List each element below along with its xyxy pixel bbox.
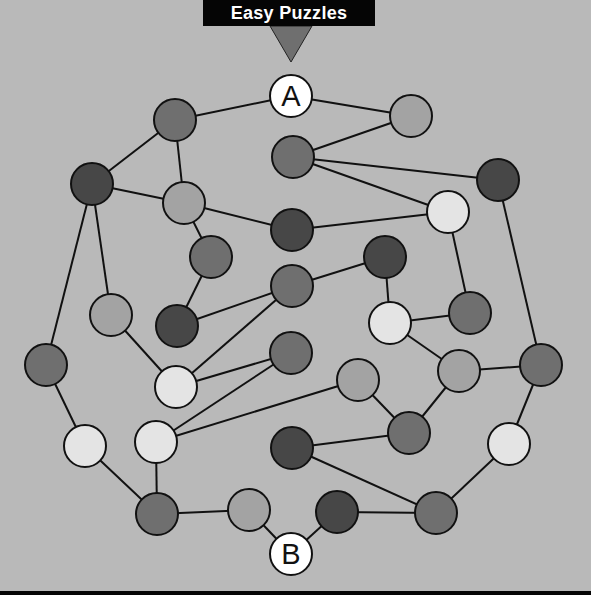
node-circle[interactable] — [136, 493, 178, 535]
graph-node[interactable] — [438, 350, 480, 392]
graph-node[interactable] — [449, 292, 491, 334]
node-circle[interactable] — [520, 344, 562, 386]
graph-node[interactable] — [388, 412, 430, 454]
graph-node[interactable] — [337, 359, 379, 401]
graph-node[interactable] — [190, 236, 232, 278]
graph-node[interactable] — [90, 294, 132, 336]
puzzle-title: Easy Puzzles — [231, 3, 348, 24]
graph-edge[interactable] — [46, 184, 92, 365]
graph-node[interactable] — [155, 366, 197, 408]
node-circle[interactable] — [337, 359, 379, 401]
node-circle[interactable] — [155, 366, 197, 408]
node-circle[interactable] — [270, 332, 312, 374]
node-circle[interactable] — [369, 302, 411, 344]
node-circle[interactable] — [415, 492, 457, 534]
graph-node[interactable] — [154, 99, 196, 141]
graph-node[interactable] — [228, 489, 270, 531]
graph-node[interactable] — [477, 159, 519, 201]
graph-canvas: AB — [0, 0, 591, 595]
graph-node[interactable] — [271, 209, 313, 251]
graph-edge[interactable] — [292, 448, 436, 513]
graph-node[interactable] — [272, 136, 314, 178]
node-circle[interactable] — [163, 182, 205, 224]
node-circle[interactable] — [488, 423, 530, 465]
node-circle[interactable] — [316, 491, 358, 533]
node-circle[interactable] — [271, 265, 313, 307]
node-circle[interactable] — [364, 236, 406, 278]
node-circle[interactable] — [71, 163, 113, 205]
graph-edge[interactable] — [292, 212, 448, 230]
node-circle[interactable] — [271, 209, 313, 251]
node-circle[interactable] — [272, 136, 314, 178]
graph-node[interactable] — [390, 95, 432, 137]
graph-node[interactable] — [156, 305, 198, 347]
graph-node[interactable] — [488, 423, 530, 465]
node-circle[interactable] — [271, 427, 313, 469]
node-label: B — [281, 538, 300, 570]
node-circle[interactable] — [90, 294, 132, 336]
bottom-border — [0, 591, 591, 595]
graph-node[interactable] — [25, 344, 67, 386]
node-circle[interactable] — [156, 305, 198, 347]
node-circle[interactable] — [390, 95, 432, 137]
graph-node[interactable] — [520, 344, 562, 386]
node-circle[interactable] — [228, 489, 270, 531]
node-circle[interactable] — [135, 421, 177, 463]
graph-nodes: AB — [25, 75, 562, 575]
puzzle-title-banner: Easy Puzzles — [203, 0, 375, 26]
node-b-endpoint[interactable]: B — [270, 533, 312, 575]
graph-node[interactable] — [364, 236, 406, 278]
graph-node[interactable] — [316, 491, 358, 533]
node-label: A — [281, 80, 301, 112]
graph-node[interactable] — [427, 191, 469, 233]
start-pointer-icon — [270, 26, 312, 62]
graph-node[interactable] — [135, 421, 177, 463]
node-circle[interactable] — [25, 344, 67, 386]
node-circle[interactable] — [477, 159, 519, 201]
graph-node[interactable] — [71, 163, 113, 205]
graph-node[interactable] — [270, 332, 312, 374]
node-circle[interactable] — [64, 425, 106, 467]
graph-node[interactable] — [136, 493, 178, 535]
node-a-endpoint[interactable]: A — [270, 75, 312, 117]
graph-node[interactable] — [271, 265, 313, 307]
node-circle[interactable] — [438, 350, 480, 392]
graph-node[interactable] — [163, 182, 205, 224]
node-circle[interactable] — [190, 236, 232, 278]
graph-node[interactable] — [415, 492, 457, 534]
puzzle-board: AB Easy Puzzles — [0, 0, 591, 595]
node-circle[interactable] — [449, 292, 491, 334]
graph-node[interactable] — [369, 302, 411, 344]
graph-node[interactable] — [64, 425, 106, 467]
node-circle[interactable] — [388, 412, 430, 454]
node-circle[interactable] — [154, 99, 196, 141]
node-circle[interactable] — [427, 191, 469, 233]
graph-node[interactable] — [271, 427, 313, 469]
graph-edge[interactable] — [498, 180, 541, 365]
